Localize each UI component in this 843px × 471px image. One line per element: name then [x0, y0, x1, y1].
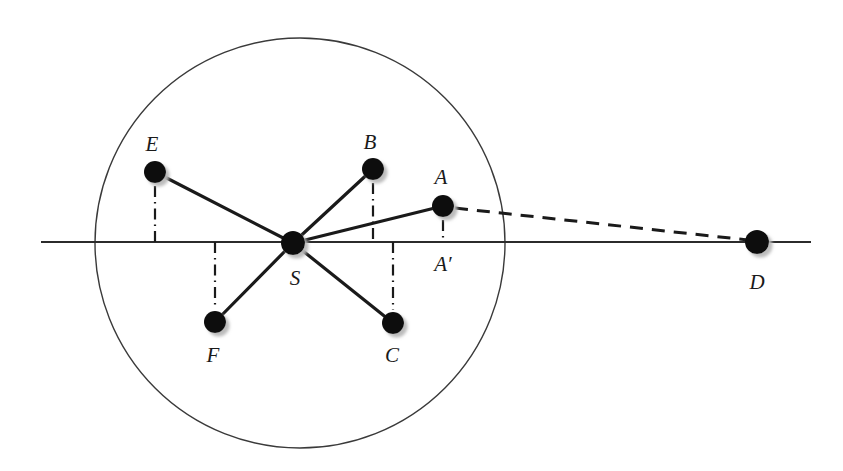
spoke-S-C — [293, 243, 393, 323]
node-label-S: S — [290, 266, 301, 290]
spoke-S-E — [155, 172, 293, 243]
node-E[interactable] — [144, 161, 166, 183]
node-label-A: A — [433, 165, 448, 189]
spoke-S-A — [293, 206, 443, 243]
node-label-C: C — [385, 343, 400, 367]
dashed-ray-layer — [455, 208, 748, 240]
diagram-svg: EBASFCDA′ — [0, 0, 843, 471]
nodes-layer — [144, 158, 769, 334]
labels-layer: EBASFCDA′ — [145, 130, 765, 367]
dashed-ray-A-D — [455, 208, 748, 240]
node-A[interactable] — [432, 195, 454, 217]
foot-label-Aprime: A′ — [432, 252, 452, 276]
node-S[interactable] — [281, 231, 305, 255]
node-B[interactable] — [362, 158, 384, 180]
node-F[interactable] — [204, 311, 226, 333]
diagram-canvas: EBASFCDA′ — [0, 0, 843, 471]
node-D[interactable] — [745, 230, 769, 254]
node-label-E: E — [145, 132, 159, 156]
node-label-B: B — [364, 130, 377, 154]
node-C[interactable] — [382, 312, 404, 334]
node-label-D: D — [748, 270, 764, 294]
node-label-F: F — [206, 343, 220, 367]
spoke-S-F — [215, 243, 293, 322]
